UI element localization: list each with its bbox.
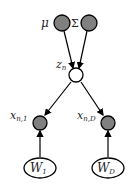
label-z-sub: n	[62, 64, 67, 72]
edge-z-xD	[81, 82, 103, 115]
node-x1	[33, 116, 47, 130]
label-x1-sub: n,1	[16, 115, 27, 123]
node-mu	[54, 15, 70, 31]
label-xD: xn,D	[77, 109, 96, 123]
label-mu: μ	[41, 16, 49, 30]
edge-mu-z	[64, 31, 73, 68]
graphical-model-diagram: μ Σ zn xn,1 xn,D W1 WD	[0, 0, 137, 191]
label-sigma: Σ	[71, 17, 79, 30]
label-x1: xn,1	[10, 109, 27, 123]
label-WD-sub: D	[108, 168, 115, 176]
node-sigma	[81, 15, 97, 31]
label-xD-sub: n,D	[83, 115, 96, 123]
node-z	[69, 68, 83, 82]
node-xD	[101, 116, 115, 130]
edge-z-x1	[45, 82, 71, 115]
label-W1-sub: 1	[42, 168, 46, 176]
label-z: zn	[55, 58, 67, 72]
edge-sigma-z	[79, 31, 87, 68]
